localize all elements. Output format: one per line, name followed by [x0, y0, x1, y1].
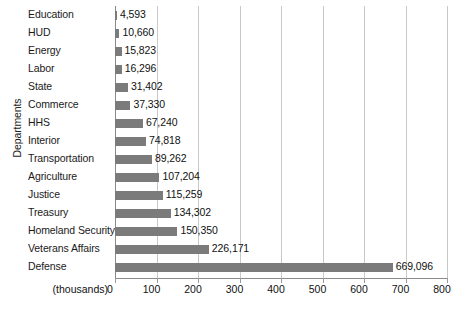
x-tick-label: 300: [226, 283, 244, 295]
bar: [115, 191, 163, 200]
bar-row: HUD10,660: [0, 24, 457, 42]
x-tick-label: 800: [433, 283, 451, 295]
bar-row: Transportation89,262: [0, 150, 457, 168]
bar-row: Homeland Security150,350: [0, 222, 457, 240]
bar-value-label: 115,259: [166, 188, 202, 200]
bar-row: Energy15,823: [0, 42, 457, 60]
bar-row: Defense669,096: [0, 258, 457, 276]
category-label: Defense: [28, 260, 66, 272]
category-label: HUD: [28, 26, 50, 38]
bar-row: Commerce37,330: [0, 96, 457, 114]
category-label: State: [28, 80, 52, 92]
bar-value-label: 15,823: [125, 44, 157, 56]
category-label: Commerce: [28, 98, 79, 110]
bar: [115, 209, 171, 218]
bar-row: Education4,593: [0, 6, 457, 24]
x-axis-units-label: (thousands): [53, 283, 108, 295]
bar-value-label: 67,240: [146, 116, 178, 128]
bar-row: State31,402: [0, 78, 457, 96]
bar-value-label: 37,330: [133, 98, 165, 110]
category-label: Justice: [28, 188, 60, 200]
category-label: Education: [28, 8, 74, 20]
x-tick-label: 500: [309, 283, 327, 295]
bar-row: Interior74,818: [0, 132, 457, 150]
bar-value-label: 10,660: [122, 26, 154, 38]
bar-value-label: 134,302: [174, 206, 211, 218]
bar-value-label: 16,296: [125, 62, 157, 74]
category-label: HHS: [28, 116, 50, 128]
bar-row: Agriculture107,204: [0, 168, 457, 186]
bar: [115, 101, 130, 110]
bar-value-label: 669,096: [396, 260, 433, 272]
bar-row: Veterans Affairs226,171: [0, 240, 457, 258]
category-label: Agriculture: [28, 170, 77, 182]
bar-value-label: 150,350: [180, 224, 217, 236]
category-label: Treasury: [28, 206, 68, 218]
category-label: Energy: [28, 44, 61, 56]
bar: [115, 227, 177, 236]
bar-row: HHS67,240: [0, 114, 457, 132]
bar: [115, 263, 393, 272]
bar: [115, 119, 143, 128]
category-label: Interior: [28, 134, 60, 146]
bar: [115, 83, 128, 92]
bar-value-label: 74,818: [149, 134, 181, 146]
bar-row: Labor16,296: [0, 60, 457, 78]
bar-value-label: 4,593: [120, 8, 146, 20]
bar: [115, 29, 119, 38]
bar: [115, 173, 159, 182]
bar: [115, 11, 117, 20]
bar: [115, 47, 122, 56]
bar: [115, 65, 122, 74]
bar-value-label: 107,204: [162, 170, 199, 182]
bar: [115, 155, 152, 164]
x-tick-label: 400: [267, 283, 285, 295]
x-tick-label: 100: [143, 283, 161, 295]
category-label: Labor: [28, 62, 54, 74]
bar-row: Treasury134,302: [0, 204, 457, 222]
category-label: Transportation: [28, 152, 94, 164]
bar-value-label: 89,262: [155, 152, 187, 164]
bar-rows: Education4,593HUD10,660Energy15,823Labor…: [0, 6, 457, 278]
x-tick-label: 600: [350, 283, 368, 295]
category-label: Homeland Security: [28, 224, 115, 236]
x-tick-label: 200: [184, 283, 202, 295]
category-label: Veterans Affairs: [28, 242, 100, 254]
x-tick-label: 700: [392, 283, 410, 295]
bar-value-label: 226,171: [212, 242, 249, 254]
bar: [115, 245, 209, 254]
x-tick-mark: [115, 278, 116, 283]
bar-value-label: 31,402: [131, 80, 163, 92]
bar-chart: Departments Education4,593HUD10,660Energ…: [0, 0, 457, 310]
bar-row: Justice115,259: [0, 186, 457, 204]
bar: [115, 137, 146, 146]
